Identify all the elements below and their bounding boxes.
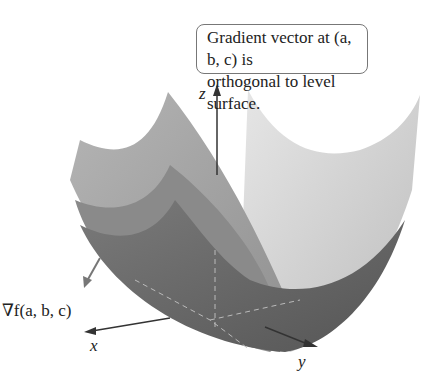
callout-line-2: orthogonal to level surface. <box>207 71 367 115</box>
gradient-arrow-icon <box>83 276 92 288</box>
z-axis-label: z <box>199 84 206 104</box>
gradient-label: ∇f(a, b, c) <box>2 300 71 321</box>
x-axis-arrow-icon <box>84 327 96 335</box>
callout-line-1: Gradient vector at (a, b, c) is <box>207 27 367 71</box>
x-axis-label: x <box>90 336 98 356</box>
callout-box: Gradient vector at (a, b, c) is orthogon… <box>196 24 368 74</box>
y-axis-label: y <box>298 352 306 372</box>
